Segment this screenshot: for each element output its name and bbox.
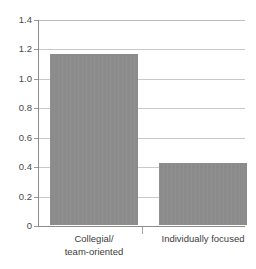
y-axis-line [38,20,39,227]
gridline [38,20,245,21]
gridline [38,49,245,50]
y-axis-tick-label: 0 [27,221,32,231]
x-axis-category-label: Collegial/ team-oriented [34,232,154,258]
y-axis-tick-label: 0.2 [19,192,32,202]
y-axis-tick-label: 0.8 [19,104,32,114]
x-axis-category-label: Individually focused [143,232,256,245]
y-axis-tick-label: 1.4 [19,15,32,25]
y-axis-tick-label: 0.6 [19,133,32,143]
plot-area: 00.20.40.60.81.01.21.4 [38,20,245,226]
bar[interactable] [50,54,138,225]
bar[interactable] [159,163,247,225]
bar-chart: 00.20.40.60.81.01.21.4 Collegial/ team-o… [0,0,256,269]
y-axis-tick-label: 1.2 [19,45,32,55]
y-axis-tick-label: 1.0 [19,74,32,84]
y-axis-tick-label: 0.4 [19,162,32,172]
